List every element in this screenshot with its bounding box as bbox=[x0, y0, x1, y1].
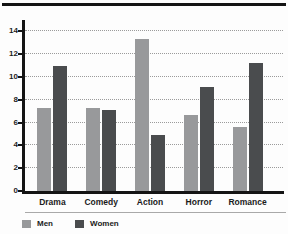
bar-group-drama bbox=[28, 20, 77, 191]
y-tick-2 bbox=[18, 167, 23, 169]
bar-women-comedy bbox=[102, 110, 116, 191]
legend-label-women: Women bbox=[90, 219, 119, 228]
bar-men-romance bbox=[233, 127, 247, 191]
bars bbox=[28, 20, 272, 191]
x-axis-label-comedy: Comedy bbox=[77, 197, 126, 207]
legend-item-men: Men bbox=[22, 219, 53, 228]
legend: MenWomen bbox=[22, 219, 119, 228]
x-axis bbox=[22, 191, 284, 194]
chart-panel: 02468101214 DramaComedyActionHorrorRoman… bbox=[0, 0, 288, 234]
bar-women-action bbox=[151, 135, 165, 191]
x-axis-label-romance: Romance bbox=[223, 197, 272, 207]
legend-item-women: Women bbox=[75, 219, 119, 228]
y-axis-label-10: 10 bbox=[9, 72, 18, 81]
bar-group-romance bbox=[223, 20, 272, 191]
bar-men-comedy bbox=[86, 108, 100, 191]
bar-women-romance bbox=[249, 63, 263, 191]
bar-group-comedy bbox=[77, 20, 126, 191]
y-axis-label-12: 12 bbox=[9, 49, 18, 58]
top-rule bbox=[2, 3, 286, 6]
bar-men-action bbox=[135, 39, 149, 191]
bar-women-drama bbox=[53, 66, 67, 191]
legend-swatch-women bbox=[75, 220, 84, 228]
y-tick-14 bbox=[18, 30, 23, 32]
x-axis-label-horror: Horror bbox=[174, 197, 223, 207]
y-tick-8 bbox=[18, 99, 23, 101]
y-tick-4 bbox=[18, 144, 23, 146]
x-axis-label-drama: Drama bbox=[28, 197, 77, 207]
legend-swatch-men bbox=[22, 220, 31, 228]
bar-men-horror bbox=[184, 115, 198, 191]
x-axis-labels: DramaComedyActionHorrorRomance bbox=[28, 197, 272, 207]
legend-label-men: Men bbox=[37, 219, 53, 228]
y-tick-6 bbox=[18, 122, 23, 124]
y-tick-0 bbox=[18, 190, 23, 192]
bar-group-action bbox=[126, 20, 175, 191]
y-tick-10 bbox=[18, 76, 23, 78]
plot-area bbox=[25, 20, 283, 191]
legend-divider bbox=[25, 212, 286, 213]
x-axis-label-action: Action bbox=[126, 197, 175, 207]
bar-men-drama bbox=[37, 108, 51, 191]
bar-group-horror bbox=[174, 20, 223, 191]
y-axis-label-14: 14 bbox=[9, 26, 18, 35]
y-axis-labels: 02468101214 bbox=[0, 20, 19, 191]
y-tick-12 bbox=[18, 53, 23, 55]
bar-women-horror bbox=[200, 87, 214, 191]
